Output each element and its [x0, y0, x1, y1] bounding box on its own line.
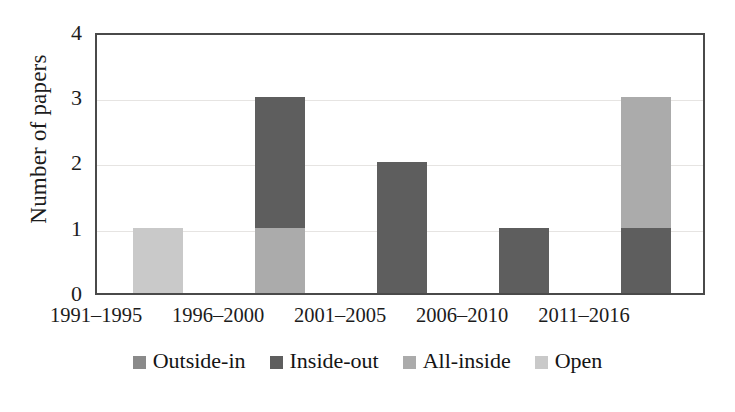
gridline-y3 — [97, 100, 703, 101]
legend-swatch-icon-open — [535, 356, 548, 369]
x-axis-tick-1991-1995: 1991–1995 — [26, 303, 166, 327]
legend-item-all-inside: All-inside — [403, 348, 511, 374]
legend-label-outside-in: Outside-in — [153, 348, 246, 374]
legend-swatch-icon-all-inside — [403, 356, 416, 369]
legend-swatch-icon-outside-in — [133, 356, 146, 369]
y-axis-tick-0: 0 — [48, 283, 82, 305]
y-axis-tick-1: 1 — [48, 218, 82, 240]
bar-segment-all-inside — [621, 97, 671, 228]
legend-swatch-icon-inside-out — [270, 356, 283, 369]
bar-segment-inside-out — [377, 162, 427, 293]
bar-segment-all-inside — [255, 228, 305, 293]
bar-group-2011-2016 — [621, 97, 671, 293]
bar-segment-inside-out — [255, 97, 305, 228]
bar-group-1991-1995 — [133, 228, 183, 293]
legend-item-outside-in: Outside-in — [133, 348, 246, 374]
legend-label-all-inside: All-inside — [423, 348, 511, 374]
x-axis-tick-2006-2010: 2006–2010 — [392, 303, 532, 327]
bar-group-1996-2000 — [255, 97, 305, 293]
legend-item-inside-out: Inside-out — [270, 348, 379, 374]
legend-item-open: Open — [535, 348, 603, 374]
chart-legend: Outside-in Inside-out All-inside Open — [0, 348, 735, 374]
bar-segment-open — [133, 228, 183, 293]
x-axis-tick-2011-2016: 2011–2016 — [514, 303, 654, 327]
y-axis-tick-3: 3 — [48, 87, 82, 109]
x-axis-tick-1996-2000: 1996–2000 — [148, 303, 288, 327]
plot-area — [95, 33, 705, 295]
bar-group-2001-2005 — [377, 162, 427, 293]
stacked-bar-chart: Number of papers 4 3 2 1 0 — [0, 0, 735, 412]
bar-segment-inside-out — [621, 228, 671, 293]
bar-group-2006-2010 — [499, 228, 549, 293]
legend-label-open: Open — [555, 348, 603, 374]
x-axis-tick-2001-2005: 2001–2005 — [270, 303, 410, 327]
bar-segment-inside-out — [499, 228, 549, 293]
legend-label-inside-out: Inside-out — [290, 348, 379, 374]
y-axis-tick-4: 4 — [48, 22, 82, 44]
y-axis-tick-2: 2 — [48, 152, 82, 174]
